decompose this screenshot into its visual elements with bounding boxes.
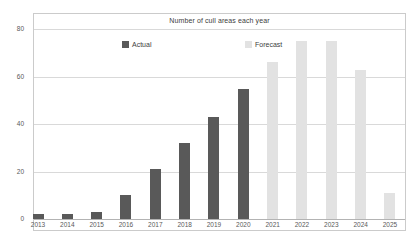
chart-figure: 806040200 Number of cull areas each year… — [0, 0, 416, 244]
actual-swatch-icon — [122, 41, 129, 48]
y-tick-label-60: 60 — [0, 73, 24, 81]
x-tick-label-2014: 2014 — [52, 221, 82, 229]
bar-forecast-2022 — [296, 41, 307, 219]
bar-actual-2020 — [238, 89, 249, 219]
bar-forecast-2024 — [355, 70, 366, 219]
bar-actual-2013 — [33, 214, 44, 219]
bar-actual-2018 — [179, 143, 190, 219]
plot-area: Number of cull areas each year Actual Fo… — [33, 13, 406, 231]
legend-label-actual: Actual — [132, 41, 151, 48]
gridline-80 — [34, 29, 405, 30]
y-tick-label-40: 40 — [0, 120, 24, 128]
chart-title: Number of cull areas each year — [34, 17, 405, 24]
x-tick-label-2017: 2017 — [140, 221, 170, 229]
bar-actual-2014 — [62, 214, 73, 219]
forecast-swatch-icon — [245, 41, 252, 48]
x-tick-label-2025: 2025 — [375, 221, 405, 229]
bar-actual-2017 — [150, 169, 161, 219]
x-tick-label-2015: 2015 — [82, 221, 112, 229]
bar-forecast-2021 — [267, 62, 278, 219]
x-tick-label-2021: 2021 — [258, 221, 288, 229]
x-tick-label-2020: 2020 — [228, 221, 258, 229]
gridline-20 — [34, 172, 405, 173]
x-tick-label-2018: 2018 — [170, 221, 200, 229]
y-tick-label-0: 0 — [0, 215, 24, 223]
x-axis-line — [34, 219, 405, 220]
gridline-60 — [34, 77, 405, 78]
gridline-40 — [34, 124, 405, 125]
bar-actual-2019 — [208, 117, 219, 219]
bar-forecast-2023 — [326, 41, 337, 219]
y-tick-label-80: 80 — [0, 25, 24, 33]
x-tick-label-2019: 2019 — [199, 221, 229, 229]
x-tick-label-2016: 2016 — [111, 221, 141, 229]
bar-actual-2016 — [120, 195, 131, 219]
bar-forecast-2025 — [384, 193, 395, 219]
y-tick-label-20: 20 — [0, 168, 24, 176]
legend-label-forecast: Forecast — [255, 41, 282, 48]
legend-item-actual: Actual — [122, 41, 151, 48]
x-tick-label-2013: 2013 — [23, 221, 53, 229]
legend-item-forecast: Forecast — [245, 41, 282, 48]
x-tick-label-2022: 2022 — [287, 221, 317, 229]
x-tick-label-2023: 2023 — [316, 221, 346, 229]
bar-actual-2015 — [91, 212, 102, 219]
x-tick-label-2024: 2024 — [346, 221, 376, 229]
